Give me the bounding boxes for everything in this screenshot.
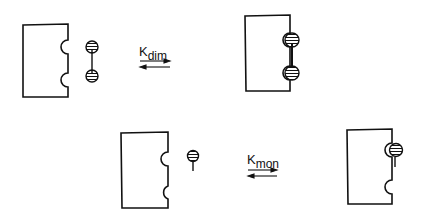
k-symbol: K <box>139 44 148 59</box>
dimer-ligand-free <box>86 41 98 82</box>
monomer-ligand-free <box>188 151 199 172</box>
rate-constant-dim-label: Kdim <box>139 44 167 63</box>
diagram-canvas <box>0 0 422 219</box>
dimer-ligand-bound <box>285 33 299 80</box>
k-subscript-mon: mon <box>256 157 279 171</box>
rate-constant-mon-label: Kmon <box>247 152 279 171</box>
receptor-top-left <box>23 24 68 97</box>
receptor-top-right <box>245 15 290 91</box>
receptor-bottom-right <box>347 129 392 204</box>
k-symbol: K <box>247 152 256 167</box>
k-subscript-dim: dim <box>148 49 167 63</box>
receptor-bottom-left <box>121 132 168 208</box>
